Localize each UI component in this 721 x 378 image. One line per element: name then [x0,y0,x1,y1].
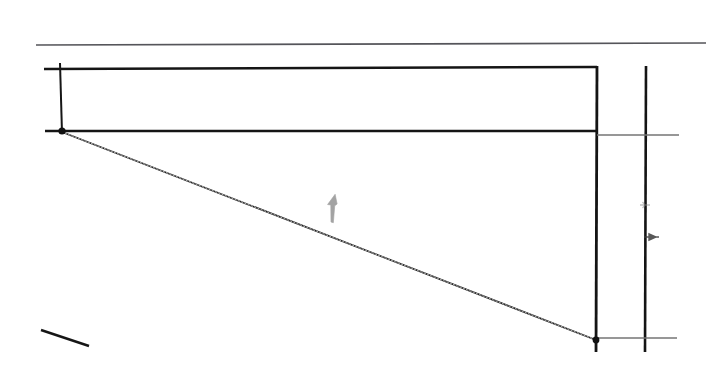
paper-background [0,0,721,378]
figure-root: FIGURE 3.63 [0,0,721,378]
left-node-dot [58,127,65,134]
far-right-vertical-member [645,66,646,352]
figure-drawing-canvas [0,0,721,378]
right-vertical-member [596,66,597,352]
right-node-dot [593,337,600,344]
